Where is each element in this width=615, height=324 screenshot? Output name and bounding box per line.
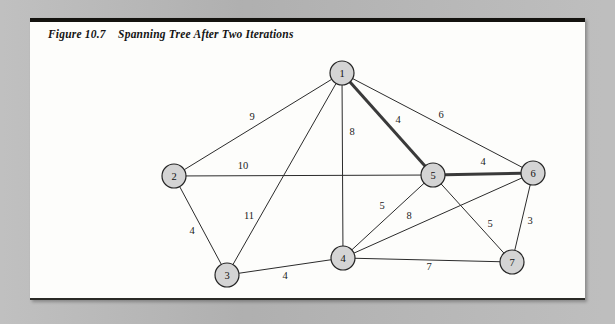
- graph-node-5: 5: [421, 163, 445, 187]
- graph-svg: 9118464104587453 1234567: [30, 18, 585, 300]
- graph-node-7: 7: [500, 250, 524, 274]
- edge-weight-2-3: 4: [189, 225, 195, 236]
- edge-1-2: [184, 79, 332, 169]
- edge-4-5: [352, 183, 424, 250]
- node-label-6: 6: [530, 168, 535, 179]
- graph-node-2: 2: [162, 164, 186, 188]
- edge-1-4: [342, 85, 343, 246]
- edge-2-3: [180, 187, 222, 265]
- graph-canvas: 9118464104587453 1234567: [30, 18, 585, 300]
- edge-weight-1-4: 8: [349, 126, 354, 137]
- figure-card: Figure 10.7 Spanning Tree After Two Iter…: [30, 18, 585, 300]
- edge-weight-1-2: 9: [249, 111, 254, 122]
- edge-1-6: [353, 79, 523, 168]
- edge-weight-1-6: 6: [438, 109, 443, 120]
- graph-node-6: 6: [521, 161, 545, 185]
- edge-5-7: [441, 184, 504, 253]
- edge-1-5: [350, 82, 425, 166]
- edge-weight-4-5: 5: [379, 200, 384, 211]
- figure-bottom-rule: [30, 298, 585, 300]
- graph-node-3: 3: [215, 263, 239, 287]
- edge-weight-4-6: 8: [406, 210, 411, 221]
- node-label-4: 4: [340, 253, 346, 264]
- edges-layer: [180, 79, 531, 274]
- edge-weight-6-7: 3: [527, 215, 532, 226]
- graph-node-1: 1: [330, 61, 354, 85]
- graph-node-4: 4: [331, 246, 355, 270]
- edge-weight-1-5: 4: [395, 114, 401, 125]
- node-label-2: 2: [171, 171, 176, 182]
- edge-weight-5-6: 4: [480, 156, 486, 167]
- node-label-7: 7: [509, 257, 514, 268]
- node-label-3: 3: [224, 270, 229, 281]
- edge-5-6: [445, 173, 521, 175]
- edge-2-5: [186, 175, 421, 176]
- edge-4-6: [354, 178, 522, 253]
- edge-weight-4-7: 7: [426, 261, 431, 272]
- node-label-5: 5: [430, 170, 435, 181]
- edge-weight-2-5: 10: [238, 160, 249, 171]
- edge-weight-5-7: 5: [487, 218, 492, 229]
- node-label-1: 1: [339, 68, 344, 79]
- edge-weight-1-3: 11: [244, 210, 254, 221]
- edge-weight-3-4: 4: [282, 270, 288, 281]
